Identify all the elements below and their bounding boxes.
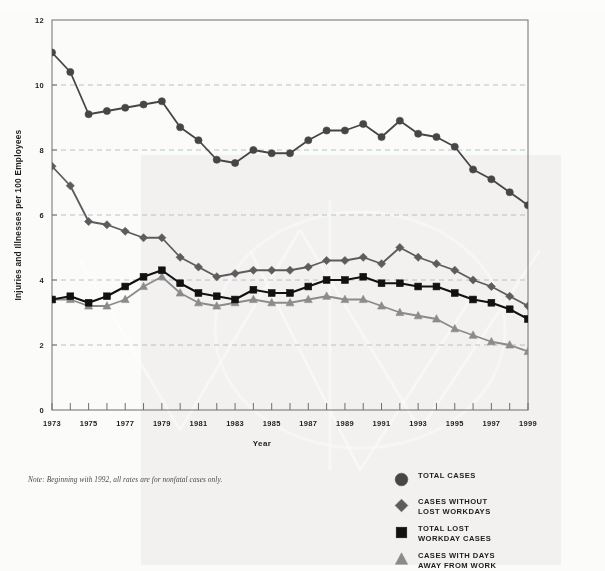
data-point [139, 234, 147, 242]
data-point [122, 104, 129, 111]
data-point [396, 117, 403, 124]
data-point [268, 290, 275, 297]
data-point [121, 295, 129, 302]
data-point [85, 217, 93, 225]
data-point [415, 130, 422, 137]
legend-item: CASES WITHOUTLOST WORKDAYS [392, 496, 582, 516]
x-tick-label: 1985 [263, 419, 281, 428]
data-point [360, 273, 367, 280]
series-area [48, 49, 532, 355]
data-point [359, 253, 367, 261]
x-tick-label: 1975 [80, 419, 98, 428]
y-axis-tick-labels: 024681012 [35, 16, 57, 415]
data-point [451, 143, 458, 150]
y-axis-title: Injuries and Illnesses per 100 Employees [13, 129, 23, 300]
x-tick-label: 1981 [190, 419, 208, 428]
x-tick-label: 1993 [409, 419, 427, 428]
data-point [250, 146, 257, 153]
x-tick-label: 1995 [446, 419, 464, 428]
data-point [433, 133, 440, 140]
chart-legend: TOTAL CASESCASES WITHOUTLOST WORKDAYSTOT… [392, 470, 582, 571]
y-tick-label: 2 [40, 341, 44, 350]
data-point [506, 306, 513, 313]
triangle-icon [392, 550, 411, 569]
y-tick-label: 0 [40, 406, 44, 415]
data-point [249, 266, 257, 274]
legend-label: CASES WITHOUTLOST WORKDAYS [418, 496, 491, 516]
x-tick-label: 1973 [43, 419, 61, 428]
chart-note: Note: Beginning with 1992, all rates are… [28, 475, 222, 484]
legend-item: TOTAL CASES [392, 470, 582, 489]
data-point [122, 283, 129, 290]
y-tick-label: 10 [35, 81, 44, 90]
x-tick-label: 1997 [482, 419, 500, 428]
data-point [488, 176, 495, 183]
series-triangle [48, 272, 532, 354]
series-square [49, 267, 532, 323]
data-point [49, 296, 56, 303]
data-point [121, 227, 129, 235]
data-point [195, 137, 202, 144]
x-axis-title: Year [253, 439, 272, 448]
square-icon [392, 523, 411, 542]
data-point [415, 283, 422, 290]
data-point [250, 286, 257, 293]
x-tick-label: 1999 [519, 419, 537, 428]
data-point [85, 299, 92, 306]
data-point [177, 124, 184, 131]
data-point [323, 277, 330, 284]
data-point [506, 189, 513, 196]
data-point [305, 283, 312, 290]
y-tick-label: 8 [40, 146, 44, 155]
data-point [341, 256, 349, 264]
data-point [140, 273, 147, 280]
data-point [194, 263, 202, 271]
data-point [524, 202, 531, 209]
data-point [48, 49, 55, 56]
data-point [286, 150, 293, 157]
x-tick-label: 1991 [373, 419, 391, 428]
legend-item: CASES WITH DAYSAWAY FROM WORK [392, 550, 582, 570]
data-point [524, 302, 532, 310]
diamond-icon [392, 496, 411, 515]
data-point [378, 133, 385, 140]
data-point [286, 266, 294, 274]
x-tick-label: 1979 [153, 419, 171, 428]
data-point [488, 299, 495, 306]
data-point [525, 316, 532, 323]
data-point [378, 280, 385, 287]
data-point [231, 159, 238, 166]
legend-item: TOTAL LOSTWORKDAY CASES [392, 523, 582, 543]
data-point [323, 127, 330, 134]
x-tick-label: 1987 [299, 419, 317, 428]
data-point [414, 253, 422, 261]
data-point [140, 101, 147, 108]
y-tick-label: 4 [40, 276, 45, 285]
data-point [469, 166, 476, 173]
data-point [103, 107, 110, 114]
data-point [432, 260, 440, 268]
data-point [104, 293, 111, 300]
data-point [85, 111, 92, 118]
data-point [304, 263, 312, 271]
circle-icon [392, 470, 411, 489]
data-point [213, 293, 220, 300]
data-point [213, 273, 221, 281]
x-tick-label: 1977 [116, 419, 134, 428]
data-point [396, 280, 403, 287]
legend-label: CASES WITH DAYSAWAY FROM WORK [418, 550, 496, 570]
legend-label: TOTAL LOSTWORKDAY CASES [418, 523, 491, 543]
series-circle [48, 49, 531, 209]
data-point [287, 290, 294, 297]
data-point [67, 293, 74, 300]
data-point [177, 280, 184, 287]
data-point [268, 150, 275, 157]
data-point [232, 296, 239, 303]
data-point [341, 127, 348, 134]
x-tick-label: 1989 [336, 419, 354, 428]
data-point [213, 156, 220, 163]
data-point [158, 98, 165, 105]
y-tick-label: 12 [35, 16, 44, 25]
data-point [469, 276, 477, 284]
x-axis-ticks [52, 403, 528, 410]
